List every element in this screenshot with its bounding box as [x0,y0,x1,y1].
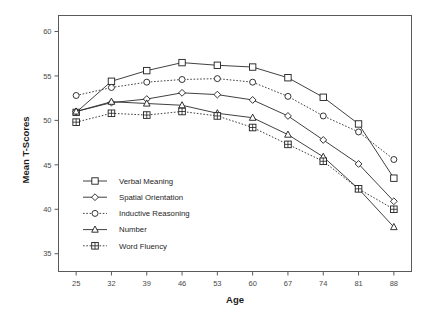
chart-legend: Verbal MeaningSpatial OrientationInducti… [83,177,190,251]
data-point-crossed-square [285,141,292,148]
data-point-square [92,178,98,184]
x-tick-label: 67 [284,279,292,288]
y-tick-label: 50 [43,116,51,125]
data-point-diamond [320,137,327,144]
y-axis-title: Mean T-Scores [20,116,31,183]
data-point-crossed-square [320,158,327,165]
data-point-circle [92,210,98,216]
legend-label: Verbal Meaning [119,177,173,186]
data-point-square [249,64,255,70]
x-axis-title: Age [226,294,244,305]
data-point-circle [250,79,256,85]
legend-item-verbal-meaning[interactable]: Verbal Meaning [83,177,173,186]
legend-item-number[interactable]: Number [83,225,147,234]
legend-item-spatial-orientation[interactable]: Spatial Orientation [83,193,183,202]
legend-label: Word Fluency [119,242,167,251]
x-tick-label: 53 [213,279,221,288]
y-tick-label: 35 [43,249,51,258]
data-point-crossed-square [249,124,256,131]
y-tick-label: 55 [43,72,51,81]
y-tick-label: 60 [43,27,51,36]
data-point-crossed-square [92,243,99,250]
data-point-circle [108,85,114,91]
legend-item-inductive-reasoning[interactable]: Inductive Reasoning [83,209,190,218]
data-point-crossed-square [73,119,80,126]
data-point-crossed-square [214,113,221,120]
x-tick-label: 60 [248,279,256,288]
x-axis-ticks: 25323946536067748188 [72,272,398,288]
data-point-triangle [92,226,99,232]
data-point-triangle [285,131,292,137]
x-tick-label: 25 [72,279,80,288]
data-point-square [179,59,185,65]
data-point-square [214,62,220,68]
data-point-diamond [179,89,186,96]
data-point-circle [144,79,150,85]
data-point-circle [320,113,326,119]
series-inductive-reasoning [73,76,397,163]
data-point-square [144,67,150,73]
x-tick-label: 88 [390,279,398,288]
series-layer [73,59,398,229]
series-verbal-meaning [73,59,397,181]
x-tick-label: 32 [107,279,115,288]
data-point-circle [214,76,220,82]
data-point-circle [73,93,79,99]
data-point-crossed-square [355,186,362,193]
data-point-square [285,75,291,81]
legend-label: Inductive Reasoning [119,209,190,218]
data-point-crossed-square [391,206,398,213]
y-axis-ticks: 354045505560 [43,27,58,258]
x-tick-label: 39 [143,279,151,288]
data-point-circle [356,129,362,135]
data-point-crossed-square [108,110,115,117]
data-point-crossed-square [143,112,150,119]
data-point-circle [391,157,397,163]
data-point-crossed-square [179,108,186,115]
data-point-circle [285,93,291,99]
data-point-square [320,94,326,100]
data-point-diamond [92,194,99,201]
series-line [76,63,394,179]
data-point-square [391,175,397,181]
series-spatial-orientation [73,89,398,204]
y-tick-label: 40 [43,205,51,214]
series-line [76,79,394,160]
legend-label: Number [119,225,147,234]
data-point-square [355,121,361,127]
x-tick-label: 74 [319,279,327,288]
chart-figure: 354045505560 25323946536067748188 Verbal… [0,0,436,321]
legend-label: Spatial Orientation [119,193,183,202]
x-tick-label: 81 [354,279,362,288]
data-point-diamond [249,97,256,104]
y-tick-label: 45 [43,161,51,170]
x-tick-label: 46 [178,279,186,288]
data-point-diamond [214,91,221,98]
data-point-square [108,78,114,84]
data-point-diamond [285,113,292,120]
plot-frame [59,16,412,272]
legend-item-word-fluency[interactable]: Word Fluency [83,242,167,251]
data-point-circle [179,77,185,83]
line-chart: 354045505560 25323946536067748188 Verbal… [0,0,436,321]
